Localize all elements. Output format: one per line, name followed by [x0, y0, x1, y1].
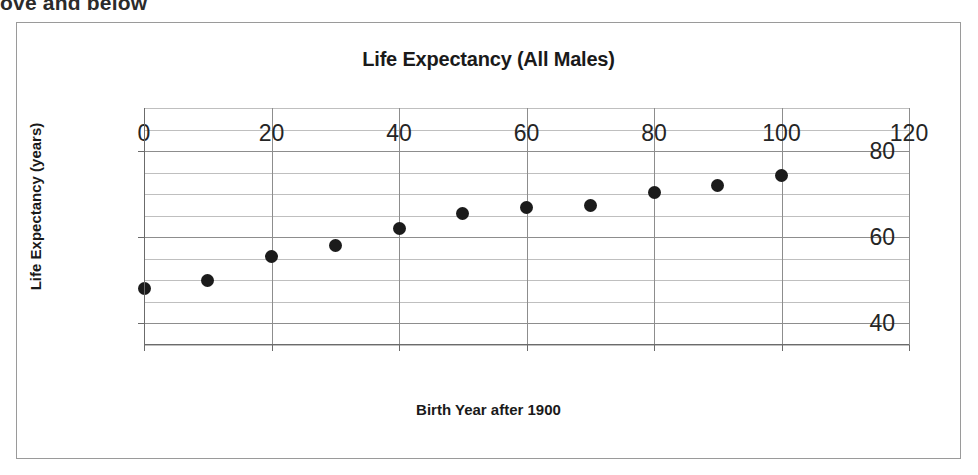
plot-area: 406080 020406080100120 [144, 108, 909, 345]
x-axis-tick [272, 345, 273, 351]
data-point [648, 186, 661, 199]
data-point [584, 199, 597, 212]
x-tick-label: 80 [641, 120, 667, 147]
chart-container: Life Expectancy (All Males) Life Expecta… [16, 22, 961, 459]
x-axis-tick [654, 345, 655, 351]
y-axis-line [144, 108, 145, 345]
x-axis-tick [144, 345, 145, 351]
data-point [520, 201, 533, 214]
x-axis-tick [909, 345, 910, 351]
y-tick-label: 60 [869, 224, 895, 251]
chart-title: Life Expectancy (All Males) [17, 48, 960, 71]
x-tick-label: 40 [386, 120, 412, 147]
x-tick-label: 120 [890, 120, 928, 147]
x-tick-label: 100 [762, 120, 800, 147]
x-axis-line [144, 344, 909, 345]
page-text-fragment: ove and below [0, 0, 300, 13]
y-axis-title: Life Expectancy (years) [27, 97, 44, 317]
x-axis-title: Birth Year after 1900 [17, 401, 960, 418]
y-tick-label: 40 [869, 310, 895, 337]
data-point [393, 222, 406, 235]
x-axis-tick [782, 345, 783, 351]
x-axis-tick [527, 345, 528, 351]
x-tick-label: 60 [514, 120, 540, 147]
x-axis-tick [399, 345, 400, 351]
x-tick-label: 20 [259, 120, 285, 147]
